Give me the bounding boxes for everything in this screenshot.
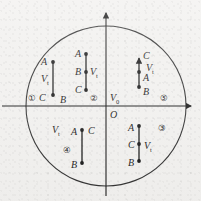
- region-1-number: ①: [28, 94, 36, 103]
- region-1-point-a: A: [41, 57, 47, 67]
- region-2-point-b: B: [75, 67, 81, 77]
- region-4-point-b: B: [71, 160, 77, 170]
- region-1-point-b: B: [60, 95, 66, 105]
- region-4-point-a: A: [71, 127, 77, 137]
- region-2-point-a: A: [75, 49, 81, 59]
- region-5-point-b: B: [143, 87, 149, 97]
- region-3-point-c: C: [128, 140, 135, 150]
- region-3-point-b: B: [128, 158, 134, 168]
- region-1-vt-label: Vt: [41, 74, 49, 88]
- region-5-number: ⑤: [160, 94, 168, 103]
- region-4-vt-label: Vt: [52, 125, 60, 139]
- region-5-point-c: C: [143, 51, 150, 61]
- region-4-phasor: [80, 128, 84, 165]
- region-3-point-a: A: [128, 123, 134, 133]
- region-5-phasor: [137, 58, 141, 89]
- region-4-point-c: C: [88, 126, 95, 136]
- region-3-number: ③: [158, 124, 166, 133]
- region-2-vt-label: Vt: [90, 67, 98, 81]
- phasor-diagram-figure: V0 O ① A Vt C B ② A B C Vt ⑤ C Vt A B ④ …: [0, 0, 201, 201]
- region-5-point-a: A: [143, 73, 149, 83]
- region-2-point-c: C: [75, 85, 82, 95]
- region-3-vt-label: Vt: [144, 141, 152, 155]
- origin-label: O: [110, 110, 117, 120]
- region-1-phasor: [51, 60, 55, 97]
- region-3-phasor: [137, 124, 141, 163]
- region-2-phasor: [84, 52, 88, 92]
- region-2-number: ②: [90, 94, 98, 103]
- origin-voltage-label: V0: [110, 93, 119, 107]
- region-4-number: ④: [63, 146, 71, 155]
- region-1-point-c: C: [39, 93, 46, 103]
